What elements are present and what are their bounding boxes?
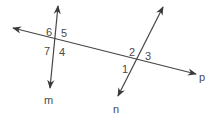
- line-p: [13, 28, 196, 74]
- angle-label-6: 6: [46, 26, 52, 38]
- parallel-lines-transversal-diagram: pmn 6574231: [0, 0, 218, 121]
- line-m: [50, 6, 58, 88]
- angle-label-5: 5: [61, 27, 67, 39]
- angle-label-4: 4: [59, 46, 65, 58]
- line-n: [118, 7, 163, 96]
- line-label-p: p: [199, 71, 205, 83]
- angle-label-3: 3: [145, 50, 151, 62]
- lines-group: [13, 6, 196, 96]
- angle-label-2: 2: [129, 46, 135, 58]
- angle-labels-group: 6574231: [44, 26, 151, 75]
- angle-label-7: 7: [44, 45, 50, 57]
- line-label-n: n: [113, 103, 119, 115]
- angle-label-1: 1: [122, 63, 128, 75]
- line-labels-group: pmn: [44, 71, 205, 115]
- line-label-m: m: [44, 94, 53, 106]
